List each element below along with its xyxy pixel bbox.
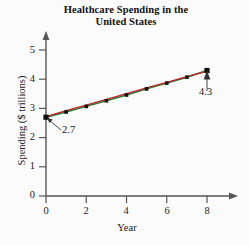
x-tick-label-2: 2 — [79, 205, 93, 216]
x-tick-label-4: 4 — [119, 205, 133, 216]
y-tick-label-0: 0 — [21, 189, 35, 200]
x-tick-label-0: 0 — [39, 205, 53, 216]
annotation-label-4-3: 4.3 — [199, 86, 212, 97]
data-point-marker — [185, 75, 189, 79]
x-axis-label: Year — [46, 222, 208, 233]
data-point-marker — [165, 81, 169, 85]
y-axis-label: Spending ($ trillions) — [16, 56, 27, 186]
x-tick-label-6: 6 — [160, 205, 174, 216]
annotation-arrows — [47, 71, 211, 130]
x-tick-label-8: 8 — [200, 205, 214, 216]
data-point-marker — [64, 110, 68, 114]
y-axis-ticks — [39, 50, 46, 196]
y-tick-label-5: 5 — [21, 44, 35, 55]
x-axis-arrowhead-icon — [229, 193, 238, 200]
annotation-arrow-2-7 — [50, 121, 62, 131]
chart-figure: Healthcare Spending in the United States — [0, 0, 249, 245]
data-point-marker — [85, 105, 89, 109]
x-axis-ticks — [46, 196, 207, 203]
y-axis-arrowhead-icon — [43, 31, 50, 40]
data-point-marker — [145, 87, 149, 91]
data-point-marker — [105, 99, 109, 103]
annotation-label-2-7: 2.7 — [62, 124, 75, 135]
data-point-marker — [125, 93, 129, 97]
